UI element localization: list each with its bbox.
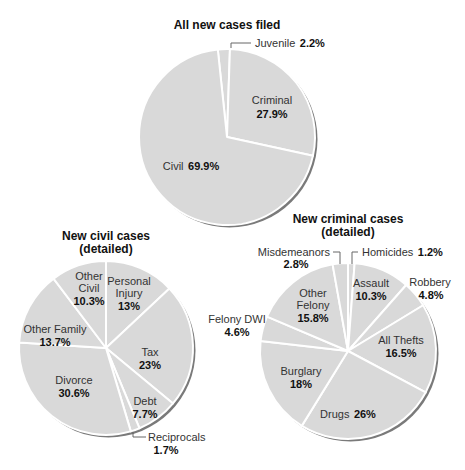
value-felony-dwi: 4.6% bbox=[224, 326, 249, 338]
value-other-felony: 15.8% bbox=[297, 312, 328, 324]
label-other-civil-1: Other bbox=[75, 270, 103, 282]
chart-title-civil: New civil cases bbox=[62, 229, 150, 243]
label-other-family: Other Family bbox=[24, 323, 87, 335]
value-all-thefts: 16.5% bbox=[385, 347, 416, 359]
label-robbery: Robbery bbox=[409, 276, 451, 288]
label-other-felony-1: Other bbox=[299, 287, 327, 299]
label-personal-injury-1: Personal bbox=[107, 275, 150, 287]
label-debt: Debt bbox=[133, 395, 156, 407]
label-burglary: Burglary bbox=[281, 365, 322, 377]
label-tax: Tax bbox=[141, 346, 159, 358]
pie-charts: All new cases filed New civil cases (det… bbox=[0, 0, 465, 470]
value-robbery: 4.8% bbox=[418, 289, 443, 301]
value-burglary: 18% bbox=[290, 378, 312, 390]
label-reciprocals: Reciprocals bbox=[148, 431, 206, 443]
label-misdemeanors: Misdemeanors bbox=[258, 246, 331, 258]
label-personal-injury-2: Injury bbox=[116, 287, 143, 299]
value-personal-injury: 13% bbox=[118, 300, 140, 312]
juvenile-leader-line bbox=[231, 43, 251, 48]
chart-title-criminal-sub: (detailed) bbox=[321, 225, 374, 239]
chart-title-all-cases: All new cases filed bbox=[174, 18, 281, 32]
value-tax: 23% bbox=[139, 359, 161, 371]
chart-title-civil-sub: (detailed) bbox=[79, 242, 132, 256]
label-all-thefts: All Thefts bbox=[378, 334, 424, 346]
value-assault: 10.3% bbox=[355, 290, 386, 302]
value-other-family: 13.7% bbox=[39, 336, 70, 348]
value-misdemeanors: 2.8% bbox=[283, 258, 308, 270]
value-other-civil: 10.3% bbox=[73, 295, 104, 307]
label-felony-dwi: Felony DWI bbox=[208, 313, 265, 325]
value-divorce: 30.6% bbox=[58, 387, 89, 399]
value-debt: 7.7% bbox=[132, 408, 157, 420]
label-other-civil-2: Civil bbox=[79, 282, 100, 294]
label-juvenile: Juvenile 2.2% bbox=[255, 33, 325, 50]
label-homicides: Homicides 1.2% bbox=[362, 242, 443, 259]
label-criminal: Criminal bbox=[252, 94, 292, 106]
value-reciprocals: 1.7% bbox=[153, 444, 178, 456]
label-assault: Assault bbox=[353, 277, 389, 289]
chart-title-criminal: New criminal cases bbox=[293, 212, 404, 226]
misdemeanors-leader-line bbox=[333, 252, 340, 264]
value-criminal: 27.9% bbox=[256, 108, 287, 120]
label-other-felony-2: Felony bbox=[296, 299, 330, 311]
label-divorce: Divorce bbox=[55, 374, 92, 386]
